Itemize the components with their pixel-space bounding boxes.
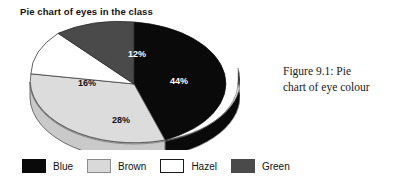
chart-title: Pie chart of eyes in the class (20, 6, 153, 17)
legend-swatch-blue (22, 159, 46, 173)
legend-item-hazel: Hazel (160, 159, 217, 173)
figure-caption-line-2: chart of eye colour (283, 79, 401, 95)
legend-swatch-hazel (160, 159, 184, 173)
pie-label-blue: 44% (170, 76, 188, 86)
legend-label-green: Green (262, 161, 290, 172)
legend-label-hazel: Hazel (191, 161, 217, 172)
legend: Blue Brown Hazel Green (22, 157, 304, 175)
legend-label-blue: Blue (53, 161, 73, 172)
legend-label-brown: Brown (118, 161, 146, 172)
legend-swatch-brown (87, 159, 111, 173)
figure-caption-line-1: Figure 9.1: Pie (283, 63, 401, 79)
legend-item-blue: Blue (22, 159, 73, 173)
legend-swatch-green (231, 159, 255, 173)
figure-container: Pie chart of eyes in the class (0, 0, 403, 185)
pie-label-green: 12% (128, 49, 146, 59)
pie-label-brown: 28% (112, 115, 130, 125)
legend-item-brown: Brown (87, 159, 146, 173)
pie-chart-svg (28, 20, 240, 150)
legend-item-green: Green (231, 159, 290, 173)
pie-label-hazel: 16% (78, 78, 96, 88)
figure-caption: Figure 9.1: Pie chart of eye colour (283, 63, 401, 95)
pie-chart: 44% 28% 16% 12% (28, 20, 240, 150)
